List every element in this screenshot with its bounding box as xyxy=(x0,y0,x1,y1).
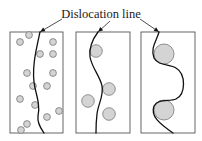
precipitate-particle xyxy=(24,121,31,128)
precipitate-particle xyxy=(82,95,95,108)
precipitate-particle xyxy=(90,45,103,58)
precipitate-particle xyxy=(24,70,31,77)
panels xyxy=(10,32,195,134)
panel-frame xyxy=(76,32,130,133)
panel-fine-dispersed-particles xyxy=(10,32,63,134)
precipitate-particle xyxy=(32,102,39,109)
precipitate-particle xyxy=(50,51,57,58)
precipitate-particle xyxy=(44,114,51,121)
particle-pinning-diagram: Dislocation line xyxy=(0,0,202,141)
panel-coarse-particles xyxy=(141,32,195,133)
precipitate-particle xyxy=(17,96,24,103)
precipitate-particle xyxy=(18,127,25,134)
arrowhead-icon xyxy=(40,28,45,32)
dislocation-line-label: Dislocation line xyxy=(61,7,141,21)
precipitate-particle xyxy=(103,108,116,121)
precipitate-particle xyxy=(17,39,24,46)
arrowhead-icon xyxy=(154,27,159,32)
panel-medium-particles xyxy=(76,32,130,133)
precipitate-particle xyxy=(50,70,57,77)
precipitate-particle xyxy=(26,32,33,39)
precipitate-particle xyxy=(103,83,116,96)
precipitate-particle xyxy=(37,51,44,58)
precipitate-particle xyxy=(56,108,63,115)
precipitate-particle xyxy=(50,39,57,46)
precipitate-particle xyxy=(44,83,51,90)
dislocation-line xyxy=(34,32,44,133)
